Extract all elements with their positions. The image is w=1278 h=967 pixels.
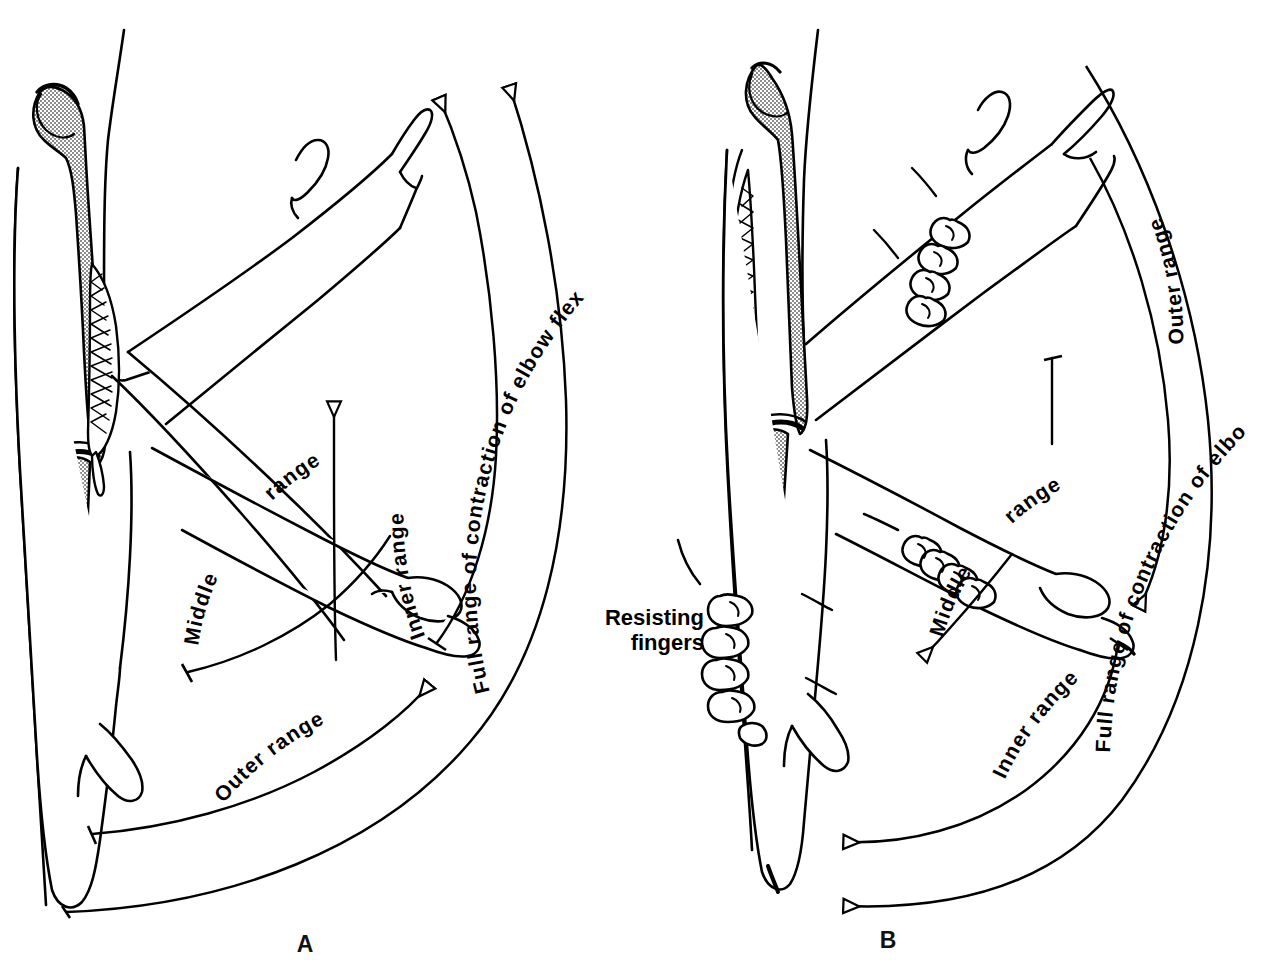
anatomy-illustration: Inner range Full range of contraction of… <box>0 0 1278 967</box>
figure-plate: Inner range Full range of contraction of… <box>0 0 1278 967</box>
panel-letter-a: A <box>297 931 314 957</box>
figure-background <box>0 0 1278 967</box>
label-resisting-fingers-line2: fingers <box>631 630 704 655</box>
label-resisting-fingers-line1: Resisting <box>605 605 704 630</box>
panel-letter-b: B <box>880 927 897 953</box>
